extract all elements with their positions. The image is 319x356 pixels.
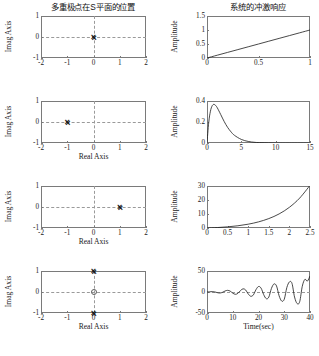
- y-tick-label: 0: [181, 288, 205, 296]
- x-tickmark: [276, 141, 277, 143]
- x-axis-label: Real Axis: [34, 322, 154, 331]
- y-tickmark: [207, 271, 209, 272]
- x-tick-label: 10: [262, 144, 290, 152]
- y-tick-label: 0: [181, 224, 205, 232]
- y-tickmark: [207, 44, 209, 45]
- x-tickmark: [284, 311, 285, 313]
- y-tickmark: [41, 292, 43, 293]
- y-axis-label: Imag Axis: [4, 261, 13, 323]
- x-axis-label: Time(sec): [199, 322, 319, 331]
- y-tick-label: 30: [181, 182, 205, 190]
- pole-marker: ×: [92, 267, 97, 276]
- y-axis-label: Imag Axis: [4, 176, 13, 238]
- y-tick-label: -1: [15, 309, 39, 317]
- y-tickmark: [207, 313, 209, 314]
- gridline-horizontal: [41, 207, 146, 208]
- y-tickmark: [41, 16, 43, 17]
- x-tickmark: [289, 226, 290, 228]
- x-tick-label: 15: [296, 144, 319, 152]
- x-tickmark: [146, 141, 147, 143]
- y-tick-label: 0: [15, 203, 39, 211]
- gridline-horizontal: [207, 292, 310, 293]
- x-tickmark: [146, 311, 147, 313]
- x-tick-label: -1: [53, 314, 81, 322]
- x-tickmark: [259, 56, 260, 58]
- x-tick-label: 40: [296, 314, 319, 322]
- y-tickmark: [41, 143, 43, 144]
- y-tick-label: 10: [181, 210, 205, 218]
- x-tick-label: 2.5: [296, 229, 319, 237]
- x-tick-label: 10: [219, 314, 247, 322]
- x-tickmark: [67, 141, 68, 143]
- x-tick-label: 1: [106, 229, 134, 237]
- x-tickmark: [259, 311, 260, 313]
- x-tick-label: 0: [80, 229, 108, 237]
- y-tickmark: [207, 101, 209, 102]
- x-tickmark: [94, 226, 95, 228]
- y-tick-label: 1: [15, 182, 39, 190]
- x-tickmark: [146, 56, 147, 58]
- x-tickmark: [67, 226, 68, 228]
- y-tickmark: [41, 207, 43, 208]
- y-tickmark: [41, 37, 43, 38]
- y-axis-label: Amplitude: [170, 6, 179, 68]
- y-tick-label: 0.2: [181, 118, 205, 126]
- x-tick-label: -1: [53, 229, 81, 237]
- y-tickmark: [41, 313, 43, 314]
- x-tickmark: [310, 141, 311, 143]
- y-tick-label: 20: [181, 196, 205, 204]
- pole-marker: ×: [92, 309, 97, 318]
- y-tickmark: [207, 214, 209, 215]
- x-tick-label: 0: [80, 144, 108, 152]
- y-axis-label: Amplitude: [170, 91, 179, 153]
- x-tickmark: [120, 226, 121, 228]
- x-tickmark: [228, 226, 229, 228]
- x-tickmark: [310, 56, 311, 58]
- x-tickmark: [120, 311, 121, 313]
- y-tick-label: 1: [15, 267, 39, 275]
- y-tick-label: 0.4: [181, 97, 205, 105]
- y-tick-label: 0: [15, 118, 39, 126]
- x-tickmark: [310, 311, 311, 313]
- y-tick-label: 1: [181, 26, 205, 34]
- y-tickmark: [207, 143, 209, 144]
- y-tickmark: [207, 228, 209, 229]
- x-tick-label: 2: [132, 314, 160, 322]
- y-tick-label: -1: [15, 54, 39, 62]
- x-tick-label: -1: [53, 144, 81, 152]
- x-tick-label: 0: [80, 59, 108, 67]
- x-tick-label: 0.5: [245, 59, 273, 67]
- x-tick-label: 5: [227, 144, 255, 152]
- x-tickmark: [120, 56, 121, 58]
- x-tickmark: [67, 56, 68, 58]
- y-axis-label: Imag Axis: [4, 6, 13, 68]
- x-tickmark: [248, 226, 249, 228]
- x-tickmark: [94, 56, 95, 58]
- pole-marker: ×: [92, 33, 97, 42]
- y-axis-label: Amplitude: [170, 261, 179, 323]
- y-tick-label: 0.5: [181, 40, 205, 48]
- x-axis-label: Real Axis: [34, 237, 154, 246]
- y-tickmark: [207, 30, 209, 31]
- x-tickmark: [94, 141, 95, 143]
- y-tickmark: [207, 58, 209, 59]
- zero-marker: [91, 289, 97, 295]
- x-tick-label: 1: [106, 59, 134, 67]
- y-axis-label: Imag Axis: [4, 91, 13, 153]
- y-tick-label: 0: [181, 54, 205, 62]
- y-tick-label: -50: [181, 309, 205, 317]
- axes-imp-row1: [207, 16, 310, 58]
- gridline-horizontal: [41, 122, 146, 123]
- x-tickmark: [233, 311, 234, 313]
- x-tickmark: [310, 226, 311, 228]
- x-tick-label: 2: [132, 144, 160, 152]
- pole-marker: ×: [65, 118, 70, 127]
- plot-title-right: 系统的冲激响应: [168, 2, 319, 12]
- y-tick-label: 1: [15, 12, 39, 20]
- x-tick-label: 1: [106, 314, 134, 322]
- x-tickmark: [241, 141, 242, 143]
- x-tick-label: 2: [132, 229, 160, 237]
- x-tick-label: 20: [245, 314, 273, 322]
- axes-imp-row3: [207, 186, 310, 228]
- x-tick-label: 1: [106, 144, 134, 152]
